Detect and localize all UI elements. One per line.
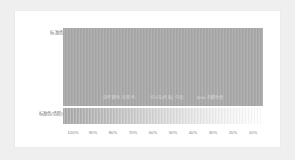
axis-tick: 30% [203,128,223,138]
axis-tick: 90% [83,128,103,138]
swatch-caption: 这些 颜色 标准 色 可以在(色板) 中选 Web 的颜色值 [63,95,263,100]
axis-tick: 20% [223,128,243,138]
axis-tick: 100% [63,128,83,138]
axis-tick: 50% [163,128,183,138]
row-label-standard-color-tints: 标准色(色阶) [17,111,63,117]
axis-tick: 40% [183,128,203,138]
tint-stripe-texture [63,108,263,124]
panel-card: 标准色 这些 颜色 标准 色 可以在(色板) 中选 Web 的颜色值 标准色(色… [14,10,281,148]
row-label-standard-color: 标准色 [21,30,63,36]
axis-tick: 70% [123,128,143,138]
axis-tick: 80% [103,128,123,138]
color-swatch-panel: 标准色 这些 颜色 标准 色 可以在(色板) 中选 Web 的颜色值 标准色(色… [0,0,295,160]
axis-tick: 60% [143,128,163,138]
swatch-caption-segment-1: 这些 颜色 标准 色 [103,95,136,100]
percentage-axis: 100% 90% 80% 70% 60% 50% 40% 30% 20% 10% [63,128,263,138]
standard-color-swatch[interactable]: 这些 颜色 标准 色 可以在(色板) 中选 Web 的颜色值 [63,28,263,106]
axis-tick: 10% [243,128,263,138]
standard-color-tint-gradient[interactable] [63,108,263,124]
swatch-caption-segment-2: 可以在(色板) 中选 [150,95,183,100]
swatch-caption-segment-3: Web 的颜色值 [197,95,223,100]
